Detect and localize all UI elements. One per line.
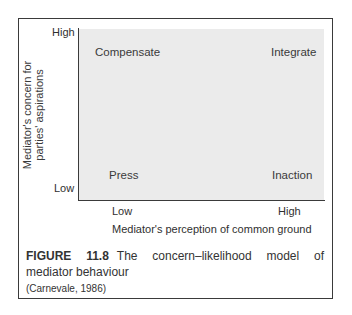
x-tick-high: High: [278, 206, 301, 217]
figure-caption: FIGURE 11.8The concern–likelihood model …: [26, 248, 324, 280]
y-axis-title-line1: Mediator's concern for: [21, 55, 33, 175]
y-axis-line: [78, 28, 79, 201]
x-tick-low: Low: [112, 206, 132, 217]
x-axis-line: [78, 200, 325, 201]
figure-label: FIGURE 11.8: [26, 249, 109, 263]
quadrant-integrate: Integrate: [271, 47, 316, 59]
x-axis-title: Mediator's perception of common ground: [112, 224, 312, 235]
y-tick-low: Low: [54, 183, 74, 194]
y-axis-title: Mediator's concern for parties' aspirati…: [21, 55, 45, 175]
quadrant-inaction: Inaction: [272, 170, 312, 182]
quadrant-press: Press: [109, 170, 138, 182]
quadrant-compensate: Compensate: [95, 47, 160, 59]
y-axis-title-line2: parties' aspirations: [33, 55, 45, 175]
y-tick-high: High: [52, 27, 75, 38]
figure-source: (Carnevale, 1986): [26, 283, 106, 294]
